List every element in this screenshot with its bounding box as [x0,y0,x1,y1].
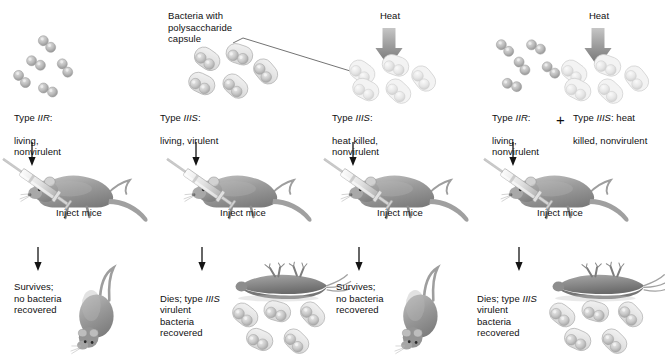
dead-mouse-2 [236,262,351,301]
result-prefix: Dies; type [160,293,205,304]
culture-label-prefix: Type [332,112,356,123]
inject-label-column-1: Inject mice [56,207,102,219]
result-label-column-2: Dies; type IIIS virulent bacteria recove… [160,281,244,339]
capsule-callout-label: Bacteria with polysaccharide capsule [168,10,254,45]
plus-sign-column-4: + [556,111,565,128]
culture-label-rest: living, virulent [160,135,218,146]
process-arrow-down-2 [198,247,205,271]
process-arrow-down-2 [355,247,362,271]
rough-bacteria-cluster-1 [11,35,76,99]
culture-label-a-column-4: Type IIR: living, nonvirulent [492,100,564,158]
result-strain: IIIS [205,293,219,304]
culture-label-b-column-4: Type IIIS: heat killed, nonvirulent [573,100,665,146]
culture-label-column-1: Type IIR: living, nonvirulent [14,100,114,158]
culture-label-column-2: Type IIIS: living, virulent [160,100,270,146]
result-rest: virulent bacteria recovered [160,304,203,338]
culture-label-strain: IIIS [597,112,611,123]
culture-label-strain: IIR [516,112,528,123]
culture-label-rest: killed, nonvirulent [573,135,647,146]
process-arrow-down-2 [515,247,522,271]
process-arrow-down-2 [34,247,41,271]
culture-label-prefix: Type [492,112,516,123]
culture-label-colon: : heat [611,112,635,123]
culture-label-rest: heat killed, nonvirulent [332,135,379,158]
culture-label-strain: IIIS [356,112,370,123]
result-label-column-1: Survives; no bacteria recovered [14,281,110,316]
culture-label-prefix: Type [14,112,38,123]
culture-label-rest: living, nonvirulent [492,135,539,158]
result-strain: IIIS [522,293,536,304]
culture-label-colon: : [198,112,201,123]
heat-label-column-4: Heat [540,10,658,21]
rough-bacteria-cluster-4 [495,38,562,94]
culture-label-colon: : [528,112,531,123]
inject-label-column-2: Inject mice [220,207,266,219]
dead-mouse-4 [553,262,665,301]
culture-label-strain: IIR [38,112,50,123]
culture-label-rest: living, nonvirulent [14,135,61,158]
result-label-column-4: Dies; type IIIS virulent bacteria recove… [477,281,561,339]
culture-label-prefix: Type [160,112,184,123]
result-label-column-3: Survives; no bacteria recovered [336,281,432,316]
inject-label-column-3: Inject mice [377,207,423,219]
culture-label-colon: : [50,112,53,123]
culture-label-prefix: Type [573,112,597,123]
result-rest: virulent bacteria recovered [477,304,520,338]
result-prefix: Dies; type [477,293,522,304]
culture-label-colon: : [370,112,373,123]
inject-label-column-4: Inject mice [537,207,583,219]
heat-label-column-3: Heat [331,10,449,21]
culture-label-column-3: Type IIIS: heat killed, nonvirulent [332,100,436,158]
culture-label-strain: IIIS [184,112,198,123]
